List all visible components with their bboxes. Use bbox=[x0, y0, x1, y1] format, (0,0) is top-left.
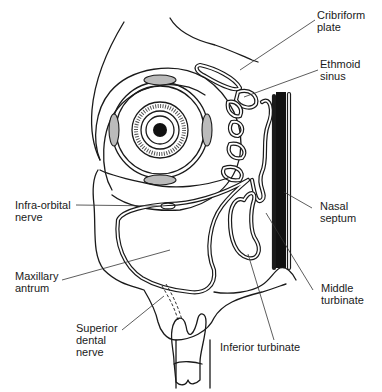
label-inferior-turbinate: Inferior turbinate bbox=[220, 341, 300, 353]
eyeball bbox=[112, 82, 208, 178]
nasal-floor bbox=[214, 268, 296, 294]
label-ethmoid-sinus: Ethmoid sinus bbox=[320, 58, 360, 82]
label-nasal-septum: Nasal septum bbox=[320, 200, 356, 224]
label-superior-dental-nerve: Superior dental nerve bbox=[76, 322, 118, 358]
orbital-roof-outline bbox=[170, 18, 258, 62]
leader-cribriform bbox=[240, 20, 315, 70]
leader-dental-nerve bbox=[122, 296, 164, 330]
label-infra-orbital-nerve: Infra-orbital nerve bbox=[15, 199, 71, 223]
label-maxillary-antrum: Maxillary antrum bbox=[15, 270, 58, 294]
anatomy-diagram: Cribriform plate Ethmoid sinus Nasal sep… bbox=[0, 0, 382, 392]
label-middle-turbinate: Middle turbinate bbox=[321, 282, 364, 306]
frontal-bone-outline bbox=[92, 22, 124, 160]
maxillary-antrum-lining bbox=[117, 180, 248, 292]
nasal-septum-shape bbox=[274, 92, 289, 268]
leader-inferior-turbinate bbox=[248, 254, 274, 340]
alveolar-process bbox=[176, 340, 210, 388]
label-cribriform-plate: Cribriform plate bbox=[317, 9, 365, 33]
leader-antrum bbox=[62, 250, 170, 280]
